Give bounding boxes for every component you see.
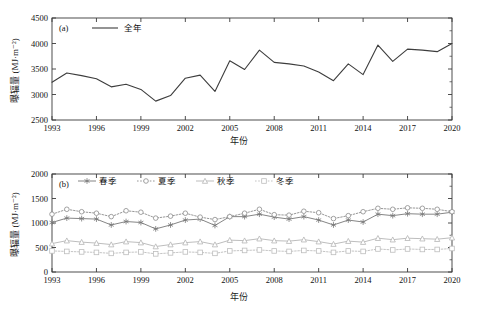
series-marker: [272, 212, 277, 217]
series-marker: [212, 223, 217, 229]
series-marker: [153, 226, 158, 232]
series-marker: [331, 216, 336, 221]
series-marker: [302, 248, 307, 253]
panel-b: 曝辐量 (MJ·m⁻²) 050010001500200019931996199…: [0, 160, 478, 312]
tick-label-y: 3000: [31, 90, 48, 100]
tick-label-x: 2005: [221, 123, 238, 133]
tick-label-x: 1996: [88, 123, 105, 133]
panel-b-xlabel: 年份: [0, 290, 478, 303]
legend: 春季夏季秋季冬季: [78, 176, 294, 186]
series-marker: [168, 251, 173, 256]
series-marker: [287, 249, 292, 254]
series-marker: [420, 206, 425, 211]
series-marker: [50, 212, 55, 217]
series-marker: [257, 207, 262, 212]
series-marker: [124, 250, 129, 255]
series-marker: [50, 249, 55, 254]
panel-a-xlabel: 年份: [0, 134, 478, 147]
series-marker: [331, 250, 336, 255]
series-marker: [168, 214, 173, 219]
series-marker: [376, 206, 381, 211]
series-marker: [242, 248, 247, 253]
legend-label: 春季: [99, 176, 117, 186]
series-marker: [420, 247, 425, 252]
tick-label-x: 2011: [310, 275, 327, 285]
tick-label-y: 500: [35, 243, 48, 253]
tick-label-x: 2011: [310, 123, 327, 133]
series-marker: [346, 249, 351, 254]
tick-label-y: 1000: [31, 218, 48, 228]
panel-b-ylabel: 曝辐量 (MJ·m⁻²): [8, 188, 21, 262]
series-marker: [316, 210, 321, 215]
series-marker: [257, 248, 262, 253]
series-marker: [405, 247, 410, 252]
series-marker: [124, 208, 129, 213]
tick-label-x: 2002: [177, 123, 194, 133]
series-line: [52, 44, 452, 102]
series-marker: [153, 216, 158, 221]
series-marker: [198, 250, 203, 255]
series-marker: [361, 209, 366, 214]
legend-label: 夏季: [158, 176, 176, 186]
tick-label-x: 2008: [266, 123, 283, 133]
series-marker: [227, 214, 232, 219]
series-marker: [435, 207, 440, 212]
series-marker: [153, 252, 158, 257]
tick-label-y: 4000: [31, 39, 48, 49]
panel-a: 曝辐量 (MJ·m⁻²) 250030003500400045001993199…: [0, 0, 478, 150]
series-marker: [405, 206, 410, 211]
legend-label: 全年: [124, 23, 142, 33]
series-marker: [139, 250, 144, 255]
series-marker: [109, 251, 114, 256]
series-marker: [331, 222, 336, 228]
series-marker: [272, 249, 277, 254]
series-marker: [242, 211, 247, 216]
series-marker: [361, 249, 366, 254]
series-marker: [390, 248, 395, 253]
series-marker: [287, 213, 292, 218]
tick-label-x: 2020: [444, 123, 461, 133]
tick-label-x: 2017: [399, 275, 416, 285]
tick-label-y: 3500: [31, 64, 48, 74]
series-marker: [390, 207, 395, 212]
legend: 全年: [92, 23, 142, 33]
figure-root: 曝辐量 (MJ·m⁻²) 250030003500400045001993199…: [0, 0, 478, 312]
tick-label-x: 2002: [177, 275, 194, 285]
tick-label-x: 1999: [132, 275, 149, 285]
tick-label-x: 1996: [88, 275, 105, 285]
series-marker: [94, 250, 99, 255]
series-marker: [213, 251, 218, 256]
tick-label-x: 1999: [132, 123, 149, 133]
series-marker: [79, 209, 84, 214]
tick-label-x: 2005: [221, 275, 238, 285]
series-marker: [109, 214, 114, 219]
series-marker: [213, 217, 218, 222]
series-marker: [346, 213, 351, 218]
legend-label: 秋季: [217, 176, 235, 186]
series-marker: [183, 250, 188, 255]
series-marker: [183, 211, 188, 216]
tick-label-x: 2008: [266, 275, 283, 285]
series-marker: [316, 249, 321, 254]
panel-a-plot: 2500300035004000450019931996199920022005…: [0, 0, 478, 150]
tick-label-x: 2020: [444, 275, 461, 285]
panel-tag: (a): [59, 23, 69, 33]
panel-tag: (b): [59, 179, 69, 189]
tick-label-x: 2014: [355, 275, 373, 285]
series-marker: [450, 246, 455, 251]
series-marker: [139, 210, 144, 215]
tick-label-y: 4500: [31, 13, 48, 23]
series-marker: [94, 211, 99, 216]
tick-label-y: 1500: [31, 194, 48, 204]
panel-a-ylabel: 曝辐量 (MJ·m⁻²): [8, 34, 21, 108]
tick-label-y: 2000: [31, 169, 48, 179]
legend-label: 冬季: [276, 176, 294, 186]
tick-label-x: 1993: [44, 275, 61, 285]
series-marker: [376, 247, 381, 252]
series-marker: [65, 249, 70, 254]
series-marker: [198, 215, 203, 220]
series-marker: [450, 209, 455, 214]
tick-label-x: 1993: [44, 123, 61, 133]
series-marker: [302, 209, 307, 214]
tick-label-x: 2017: [399, 123, 416, 133]
